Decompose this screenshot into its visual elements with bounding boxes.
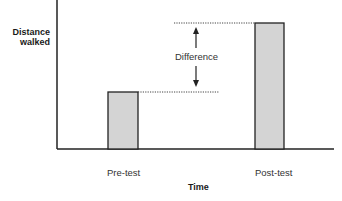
x-tick-pre-test: Pre-test [107,167,140,178]
bar-post-test [255,23,284,149]
x-tick-post-test: Post-test [255,167,293,178]
y-axis-label: Distance walked [2,27,50,47]
difference-label: Difference [175,51,218,62]
arrow-down-icon [193,66,199,87]
y-axis-label-line1: Distance [2,27,50,37]
y-axis-label-line2: walked [2,37,50,47]
arrow-up-icon [193,27,199,48]
x-axis-label: Time [188,182,209,192]
bar-pre-test [108,92,138,149]
